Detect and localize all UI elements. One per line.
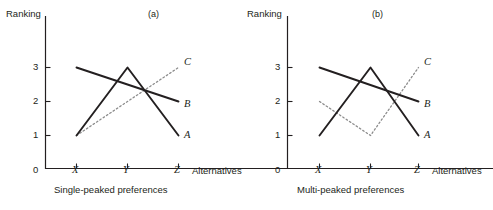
- panel-a-label: (a): [148, 10, 159, 19]
- panel-b-x-axis-title: Alternatives: [432, 166, 482, 176]
- panel-b-y-axis-title: Ranking: [247, 9, 282, 19]
- panel-b-series-B-line: [320, 68, 419, 102]
- panel-b-plot-svg: [246, 0, 493, 210]
- panel-a-series-C-label: C: [184, 57, 191, 68]
- panel-a-single-peaked: Ranking (a) 3 2 1 0 X Y Z Alternatives C…: [0, 0, 246, 210]
- figure-single-vs-multi-peaked-preferences: Ranking (a) 3 2 1 0 X Y Z Alternatives C…: [0, 0, 493, 210]
- panel-a-xtick-label-Y: Y: [123, 165, 129, 176]
- panel-b-multi-peaked: Ranking (b) 3 2 1 0 X Y Z Alternatives C…: [246, 0, 492, 210]
- panel-a-y-axis-title: Ranking: [6, 9, 41, 19]
- panel-b-series-A-line: [320, 68, 419, 136]
- panel-a-ytick-label-3: 3: [33, 62, 38, 72]
- panel-a-ytick-label-1: 1: [33, 130, 38, 140]
- panel-b-series-C-line: [320, 68, 419, 136]
- panel-b-origin-label: 0: [275, 165, 280, 175]
- panel-b-xtick-label-Z: Z: [414, 165, 420, 176]
- panel-a-series-C-line: [77, 68, 179, 136]
- panel-a-series-B-line: [77, 68, 179, 102]
- panel-b-xtick-label-Y: Y: [366, 165, 372, 176]
- panel-b-series-B-label: B: [424, 99, 430, 110]
- panel-a-caption: Single-peaked preferences: [54, 185, 168, 195]
- panel-b-label: (b): [372, 10, 383, 19]
- panel-b-ytick-label-1: 1: [275, 130, 280, 140]
- panel-a-ytick-label-2: 2: [33, 96, 38, 106]
- panel-a-xtick-label-Z: Z: [174, 165, 180, 176]
- panel-a-origin-label: 0: [33, 165, 38, 175]
- panel-b-ytick-label-3: 3: [275, 62, 280, 72]
- panel-b-ytick-label-2: 2: [275, 96, 280, 106]
- panel-b-series-C-label: C: [424, 57, 431, 68]
- panel-b-xtick-label-X: X: [315, 165, 321, 176]
- panel-a-xtick-label-X: X: [72, 165, 78, 176]
- panel-a-x-axis-title: Alternatives: [192, 166, 242, 176]
- panel-a-series-A-label: A: [184, 130, 190, 141]
- panel-b-series-A-label: A: [424, 130, 430, 141]
- panel-a-series-B-label: B: [184, 99, 190, 110]
- panel-b-caption: Multi-peaked preferences: [297, 185, 404, 195]
